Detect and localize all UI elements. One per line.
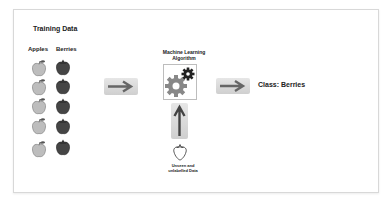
input-arrow	[171, 103, 188, 139]
arrow-up-icon	[171, 103, 188, 139]
apple-icon	[31, 117, 47, 135]
gears-icon	[164, 65, 196, 99]
berry-icon	[55, 138, 71, 156]
apple-icon	[31, 97, 47, 115]
result-class-label: Class: Berries	[258, 81, 305, 88]
berry-icon	[55, 117, 71, 135]
strawberry-icon	[172, 143, 188, 161]
arrow-right-icon	[216, 78, 250, 94]
apple-icon	[31, 78, 47, 96]
berry-icon	[55, 97, 71, 115]
apple-icon	[31, 140, 47, 158]
algorithm-box	[163, 64, 197, 100]
training-data-title: Training Data	[33, 25, 77, 32]
arrow-right-icon	[104, 78, 138, 95]
berries-label: Berries	[56, 46, 77, 52]
apples-label: Apples	[28, 46, 48, 52]
berry-icon	[55, 58, 71, 76]
training-arrow	[104, 78, 138, 95]
unseen-data-label: Unseen and unlabelled Data	[158, 163, 208, 173]
output-arrow	[216, 78, 250, 94]
apple-icon	[31, 59, 47, 77]
berry-icon	[55, 77, 71, 95]
algorithm-label: Machine Learning Algorithm	[158, 49, 210, 61]
